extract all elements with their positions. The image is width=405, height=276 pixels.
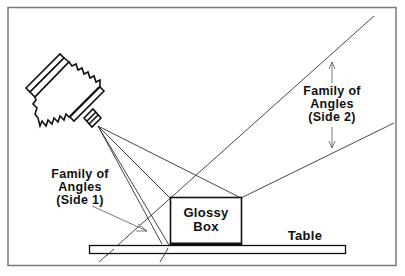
side1-label: Family of Angles (Side 1) <box>40 168 120 207</box>
box-label-line1: Glossy <box>170 206 242 220</box>
diagram-canvas <box>0 0 405 276</box>
side2-arrow-down <box>329 127 335 148</box>
side2-label: Family of Angles (Side 2) <box>292 85 372 124</box>
side1-line3: (Side 1) <box>40 194 120 207</box>
box-label-line2: Box <box>170 220 242 234</box>
table-label: Table <box>280 229 330 242</box>
camera-icon <box>26 54 104 127</box>
side2-arrow-up <box>329 62 335 83</box>
light-rays <box>98 16 394 262</box>
side1-arrow <box>92 206 147 231</box>
table-surface <box>90 246 346 254</box>
box-label: Glossy Box <box>170 206 242 234</box>
side2-line3: (Side 2) <box>292 111 372 124</box>
